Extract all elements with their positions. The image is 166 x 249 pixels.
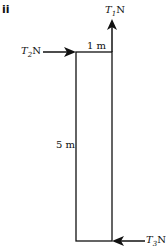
width-dimension-label: 1 m [87, 40, 106, 51]
rod-rectangle [76, 52, 112, 241]
t3-label: T3N [146, 234, 166, 248]
height-dimension-label: 5 m [56, 139, 75, 150]
rod-diagram [0, 0, 166, 249]
t1-label: T1N [105, 4, 125, 18]
t2-label: T2N [21, 45, 41, 59]
